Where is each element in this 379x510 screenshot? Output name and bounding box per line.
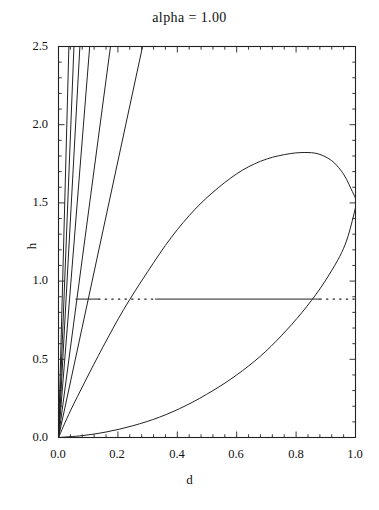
plot-canvas [0,0,379,510]
data-series [59,47,356,438]
plot-figure: alpha = 1.00 h d 2.5 2.0 1.5 1.0 0.5 0.0… [0,0,379,510]
